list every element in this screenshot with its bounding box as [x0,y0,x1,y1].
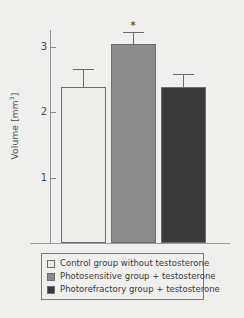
y-tick-label-1: 1 [31,173,47,183]
bar-control-group [61,87,106,243]
significance-asterisk: * [127,22,139,30]
legend-swatch-photosensitive-group [47,273,55,281]
legend-swatch-photorefractory-group [47,286,55,294]
y-axis-label: Volume [mm3] [8,91,20,161]
y-tick-mark-1 [51,178,56,179]
legend-swatch-control-group [47,260,55,268]
bar-photosensitive-group [111,44,156,243]
error-bar-stem-photosensitive-group [133,32,134,44]
y-axis-label-text: Volume [mm [10,100,20,159]
legend-label-photosensitive-group: Photosensitive group + testosterone [60,272,216,281]
plot-area: 3 2 1 Volume [mm3] * [0,0,244,250]
error-bar-stem-photorefractory-group [183,74,184,87]
legend-label-photorefractory-group: Photorefractory group + testosterone [60,285,220,294]
y-tick-label-3: 3 [31,42,47,52]
error-bar-cap-photorefractory-group [173,74,194,75]
chart-legend: Control group without testosterone Photo… [41,253,204,300]
x-axis-line [30,243,230,244]
legend-item-control-group: Control group without testosterone [47,257,199,270]
y-axis-label-suffix: ] [10,92,20,96]
error-bar-stem-control-group [83,69,84,87]
error-bar-cap-photosensitive-group [123,32,144,33]
y-tick-mark-3 [51,47,56,48]
y-axis-label-exponent: 3 [8,96,15,100]
y-tick-mark-2 [51,112,56,113]
y-tick-label-2: 2 [31,107,47,117]
legend-label-control-group: Control group without testosterone [60,259,209,268]
error-bar-cap-control-group [73,69,94,70]
legend-item-photorefractory-group: Photorefractory group + testosterone [47,283,199,296]
bar-photorefractory-group [161,87,206,243]
legend-item-photosensitive-group: Photosensitive group + testosterone [47,270,199,283]
y-axis-line [50,30,51,244]
bar-chart-figure: 3 2 1 Volume [mm3] * Control group witho… [0,0,244,318]
